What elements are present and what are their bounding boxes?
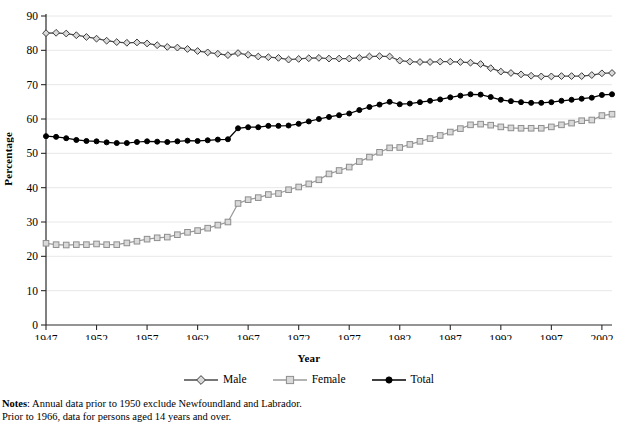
data-point [165,140,170,145]
y-tick-label: 20 [27,250,39,262]
data-point [406,58,413,65]
data-point [43,240,49,246]
data-point [568,73,575,80]
x-tick-label: 1977 [338,333,361,340]
data-point [559,122,565,128]
data-point [245,51,252,58]
data-point [113,39,120,46]
data-point [397,102,402,107]
x-tick-label: 1947 [35,333,58,340]
data-point [123,39,130,46]
data-point [53,242,59,248]
data-point [468,122,474,128]
data-point [458,93,463,98]
data-point [63,30,70,37]
notes-heading: Notes [2,398,27,409]
y-tick-label: 30 [27,216,39,228]
data-point [538,73,545,80]
data-point [225,137,230,142]
data-point [104,242,110,248]
data-point [357,159,363,165]
x-tick-label: 1952 [85,333,108,340]
data-point [164,234,170,240]
y-tick-label: 60 [27,113,39,125]
data-point [569,120,575,126]
data-point [437,133,443,139]
data-point [296,184,302,190]
x-tick-label: 1962 [186,333,209,340]
data-point [387,145,393,151]
data-point [144,236,150,242]
data-point [578,73,585,80]
data-point [347,111,352,116]
data-point [175,232,181,238]
data-point [64,136,69,141]
data-point [366,53,373,60]
data-point [438,97,443,102]
data-point [145,139,150,144]
data-point [488,122,494,128]
data-point [44,134,49,139]
data-point [124,240,130,246]
data-point [114,242,120,248]
data-point [336,168,342,174]
legend-marker-female-icon [273,374,307,386]
data-point [468,92,473,97]
data-point [235,201,241,207]
data-point [84,242,90,248]
data-point [448,95,453,100]
data-point [214,50,221,57]
data-point [306,119,311,124]
data-point [478,92,483,97]
data-point [528,125,534,131]
data-point [195,228,201,234]
data-point [276,123,281,128]
data-point [488,95,493,100]
data-point [185,230,191,236]
series-female [43,111,615,247]
data-point [276,191,282,197]
data-point [599,113,605,119]
data-point [589,95,594,100]
data-point [528,72,535,79]
legend-item-male: Male [184,374,247,386]
notes-text-2: Prior to 1966, data for persons aged 14 … [2,411,231,422]
x-tick-label: 1982 [388,333,411,340]
data-point [427,59,434,66]
x-tick-label: 1972 [287,333,310,340]
data-point [478,121,484,127]
data-point [519,100,524,105]
data-point [155,139,160,144]
x-tick-label: 2002 [590,333,613,340]
data-point [194,48,201,55]
y-tick-label: 70 [27,79,39,91]
data-point [588,72,595,79]
data-point [428,98,433,103]
data-point [336,55,343,62]
data-point [256,125,261,130]
legend-label-female: Female [312,374,346,386]
data-point [185,138,190,143]
data-point [266,192,272,198]
chart-plot-area: 0102030405060708090194719521957196219671… [0,0,618,340]
data-point [579,96,584,101]
data-point [285,56,292,63]
legend-item-female: Female [273,374,346,386]
data-point [225,52,232,59]
y-tick-label: 40 [27,182,39,194]
data-point [94,241,100,247]
data-point [589,117,595,123]
data-point [215,222,221,228]
data-point [83,34,90,41]
data-point [386,53,393,60]
data-point [316,117,321,122]
data-point [558,73,565,80]
data-point [286,123,291,128]
data-point [84,138,89,143]
data-point [387,99,392,104]
data-point [357,108,362,113]
data-point [477,61,484,68]
data-point [549,100,554,105]
data-point [457,59,464,66]
data-point [175,139,180,144]
